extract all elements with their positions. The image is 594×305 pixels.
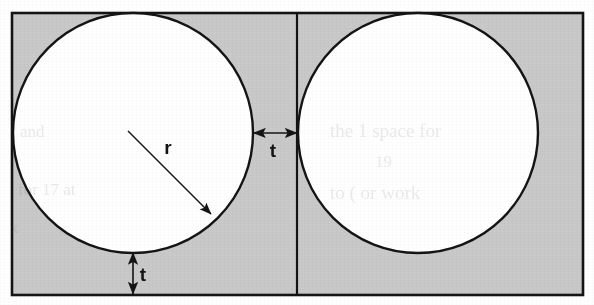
figure-canvas: r t t bbox=[0, 0, 594, 305]
radius-label: r bbox=[164, 137, 172, 158]
left-circle bbox=[13, 13, 253, 253]
geometry-figure: r t t the 1 space for19to ( or workandfo… bbox=[0, 0, 594, 305]
horizontal-gap-label: t bbox=[270, 140, 277, 161]
vertical-gap-label: t bbox=[140, 264, 147, 285]
right-circle bbox=[298, 13, 538, 253]
